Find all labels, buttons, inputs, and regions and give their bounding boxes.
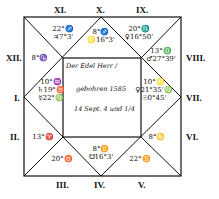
house-ix-planet: ♀16°50': [122, 33, 156, 41]
house-ix-cusp: 20°♏: [122, 25, 156, 33]
house-label-ii: II.: [10, 133, 19, 142]
house-i: 10°♒ ♄19°♉ ☿22°♍: [36, 78, 66, 102]
house-label-xi: XI.: [54, 6, 66, 15]
house-i-cusp: 10°♒: [36, 78, 66, 86]
house-ii-cusp: 13°♈: [30, 133, 56, 141]
house-ix: 20°♏ ♀16°50': [122, 25, 156, 41]
house-x-cusp: 8°♐: [86, 28, 116, 36]
house-iv-cusp: 8°♊: [86, 145, 116, 153]
center-birth-date: 14 Sept. 4 und 1/4: [74, 106, 135, 113]
house-label-xii: XII.: [6, 54, 22, 63]
house-vii-planet-2: ☉0°45': [134, 94, 174, 102]
house-ii: 13°♈: [30, 133, 56, 141]
house-xii-cusp: 8°♑: [30, 54, 50, 62]
house-xi-planet: ♃7°3': [48, 33, 78, 41]
house-label-viii: VIII.: [186, 54, 205, 63]
house-label-i: I.: [14, 94, 20, 103]
house-label-v: V.: [138, 181, 146, 190]
house-label-iii: III.: [56, 181, 69, 190]
house-xi: 22°♐ ♃7°3': [48, 25, 78, 41]
house-vii-cusp: 10°♌: [134, 78, 174, 86]
center-birth-year: gebohren 1585: [76, 86, 126, 93]
house-vii-planet-1: ♀21°35'♍: [134, 86, 174, 94]
house-x: 8°♐ ♌16°3': [86, 28, 116, 44]
house-vii: 10°♌ ♀21°35'♍ ☉0°45': [134, 78, 174, 102]
house-xii: 8°♑: [30, 54, 50, 62]
house-i-planet-1: ♄19°♉: [36, 86, 66, 94]
house-iii-cusp: 20°♉: [48, 155, 76, 163]
house-label-x: X.: [96, 6, 105, 15]
house-vi-cusp: 8°♋: [144, 133, 170, 141]
house-v-cusp: 22°♊: [126, 155, 154, 163]
house-x-planet: ♌16°3': [86, 36, 116, 44]
house-iv: 8°♊ ☋16°3': [86, 145, 116, 161]
house-label-ix: IX.: [136, 6, 148, 15]
house-label-vi: VI.: [186, 133, 198, 142]
house-iii: 20°♉: [48, 155, 76, 163]
house-label-vii: VII.: [186, 94, 202, 103]
center-title: Der Edel Herr /: [66, 63, 117, 70]
house-label-iv: IV.: [94, 181, 105, 190]
house-vi: 8°♋: [144, 133, 170, 141]
house-xi-cusp: 22°♐: [48, 25, 78, 33]
house-v: 22°♊: [126, 155, 154, 163]
house-viii-planet: ♂27°39': [143, 55, 179, 63]
house-viii-cusp: 13°♎: [143, 47, 179, 55]
house-iv-planet: ☋16°3': [86, 153, 116, 161]
house-viii: 13°♎ ♂27°39': [143, 47, 179, 63]
house-i-planet-2: ☿22°♍: [36, 94, 66, 102]
